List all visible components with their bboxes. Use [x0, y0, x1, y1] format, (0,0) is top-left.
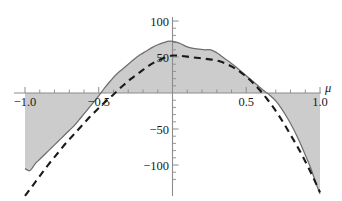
y-tick-label: −50 — [149, 123, 169, 137]
x-tick-label: −1.0 — [14, 95, 37, 109]
y-tick-label: 50 — [157, 51, 170, 65]
y-tick-label: 100 — [150, 15, 169, 29]
y-tick-label: −100 — [143, 159, 169, 173]
x-tick-label: 1.0 — [312, 95, 328, 109]
chart-figure: −1.0−0.50.51.0 10050−50−100 μ — [0, 0, 342, 201]
chart-canvas: −1.0−0.50.51.0 10050−50−100 μ — [0, 0, 342, 201]
x-tick-label: −0.5 — [87, 95, 110, 109]
x-axis-label: μ — [324, 81, 331, 95]
x-tick-label: 0.5 — [238, 95, 254, 109]
